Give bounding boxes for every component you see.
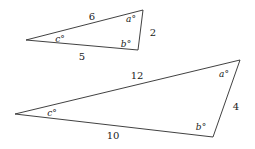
large-triangle-outline [15, 60, 240, 137]
small-triangle-outline [26, 10, 143, 50]
triangles-canvas [0, 0, 255, 149]
geometry-figure: 6 5 2 c° a° b° 12 10 4 c° a° b° [0, 0, 255, 149]
